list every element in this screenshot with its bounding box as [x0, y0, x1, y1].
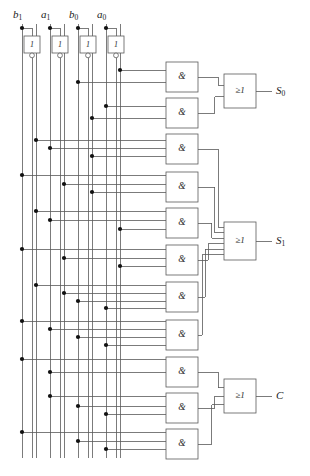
and-gate-1-tap-0	[118, 68, 122, 72]
and-gate-6-tap-1	[62, 256, 66, 260]
and-gate-7-tap-2	[76, 299, 80, 303]
or-gate-c-label: ≥1	[235, 390, 244, 400]
input-label-a1: a1	[41, 8, 50, 22]
and-gate-5-tap-2	[118, 227, 122, 231]
and-gate-3-tap-0	[34, 138, 38, 142]
and-gate-3-tap-2	[90, 154, 94, 158]
and-gate-2-tap-1	[90, 116, 94, 120]
and-gate-9-tap-1	[48, 370, 52, 374]
and-gate-11-tap-0	[20, 430, 24, 434]
output-s0-label: S0	[276, 84, 285, 98]
input-label-a0: a0	[97, 8, 106, 22]
and-gate-1-label: &	[178, 71, 186, 81]
and-gate-10-tap-0	[48, 394, 52, 398]
or-gate-s0-label: ≥1	[235, 85, 244, 95]
inverter-label-a1: 1	[58, 40, 62, 49]
inverter-label-b1: 1	[30, 40, 34, 49]
junction-input-a1	[48, 26, 52, 30]
junction-input-b1	[20, 26, 24, 30]
inverter-bubble-b0	[86, 53, 91, 58]
and-gate-2-label: &	[178, 107, 186, 117]
and-gate-4-tap-1	[62, 182, 66, 186]
and-gate-8-tap-0	[20, 319, 24, 323]
and-gate-8-tap-1	[48, 327, 52, 331]
inverter-bubble-a0	[114, 53, 119, 58]
output-s1-label: S1	[276, 234, 285, 248]
and-gate-7-tap-3	[104, 306, 108, 310]
and-gate-5-tap-1	[48, 218, 52, 222]
inverter-bubble-b1	[30, 53, 35, 58]
and-gate-3-label: &	[178, 143, 186, 153]
input-label-b0: b0	[69, 8, 78, 22]
and-gate-10-label: &	[178, 402, 186, 412]
inverter-bubble-a1	[58, 53, 63, 58]
and-gate-8-label: &	[178, 329, 186, 339]
and-gate-7-label: &	[178, 291, 186, 301]
and-gate-4-tap-2	[90, 190, 94, 194]
input-label-b1: b1	[13, 8, 22, 22]
and-gate-10-tap-2	[104, 412, 108, 416]
and-gate-7-tap-1	[62, 291, 66, 295]
and-gate-9-tap-0	[20, 357, 24, 361]
inverter-label-b0: 1	[86, 40, 90, 49]
and-gate-10-tap-1	[76, 404, 80, 408]
and-gate-4-tap-0	[20, 173, 24, 177]
and-gate-11-tap-1	[76, 439, 80, 443]
and-gate-7-tap-0	[34, 283, 38, 287]
and-gate-5-tap-0	[34, 209, 38, 213]
and-gate-2-tap-0	[104, 104, 108, 108]
and-gate-5-label: &	[178, 217, 186, 227]
and-gate-6-label: &	[178, 254, 186, 264]
and-gate-3-tap-1	[48, 146, 52, 150]
circuit-diagram: 1111&&&&&&&&&&&≥1≥1≥1	[0, 0, 310, 476]
and-gate-1-tap-1	[76, 80, 80, 84]
or-gate-s1-label: ≥1	[235, 235, 244, 245]
inverter-label-a0: 1	[114, 40, 118, 49]
and-gate-6-tap-0	[20, 247, 24, 251]
junction-input-a0	[104, 26, 108, 30]
and-gate-8-tap-2	[76, 335, 80, 339]
and-gate-11-tap-2	[104, 447, 108, 451]
and-gate-11-label: &	[178, 438, 186, 448]
junction-input-b0	[76, 26, 80, 30]
and-gate-8-tap-3	[104, 343, 108, 347]
output-c-label: C	[276, 389, 283, 401]
and-gate-4-label: &	[178, 181, 186, 191]
and-gate-6-tap-2	[118, 264, 122, 268]
and-gate-9-label: &	[178, 366, 186, 376]
